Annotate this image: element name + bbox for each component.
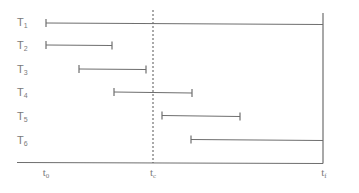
interval-t6 — [191, 136, 323, 144]
axis-label-t0: t0 — [43, 167, 50, 180]
axis-label-tc: tc — [150, 167, 156, 180]
task-label-t5: T5 — [17, 111, 28, 123]
task-label-t4: T4 — [17, 87, 28, 99]
interval-t3 — [79, 65, 146, 74]
task-label-t6: T6 — [17, 135, 28, 147]
task-label-t1: T1 — [17, 17, 28, 29]
axis-label-tf: tf — [321, 167, 326, 180]
interval-t2 — [46, 41, 112, 50]
timeline-diagram — [0, 0, 359, 193]
time-axis — [17, 163, 323, 164]
task-label-t3: T3 — [17, 64, 28, 76]
interval-t5 — [162, 112, 240, 121]
task-label-t2: T2 — [17, 40, 28, 52]
interval-t1 — [46, 19, 323, 27]
